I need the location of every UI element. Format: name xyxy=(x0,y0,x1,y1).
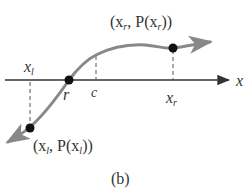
polynomial-curve xyxy=(8,42,210,142)
xr-tick-label: xr xyxy=(165,89,177,108)
diagram-canvas: (xr, P(xr)) xl r c xr x (xl, P(xl)) (b) xyxy=(0,0,249,195)
c-label: c xyxy=(91,85,98,100)
root-point xyxy=(65,76,74,85)
x-axis-label: x xyxy=(235,72,243,89)
left-point xyxy=(26,124,35,133)
left-point-label: (xl, P(xl)) xyxy=(33,137,93,156)
xl-tick-label: xl xyxy=(23,58,34,77)
right-point xyxy=(169,44,178,53)
right-point-label: (xr, P(xr)) xyxy=(110,13,172,32)
bisection-diagram: (xr, P(xr)) xl r c xr x (xl, P(xl)) (b) xyxy=(0,0,249,195)
root-label: r xyxy=(63,86,70,103)
figure-caption: (b) xyxy=(111,170,130,188)
